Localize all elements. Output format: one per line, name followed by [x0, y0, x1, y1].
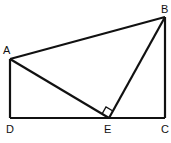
geometry-diagram: A B D E C	[0, 0, 171, 143]
label-d: D	[6, 123, 14, 135]
segment-ab	[10, 17, 165, 59]
segment-ae	[10, 59, 109, 118]
label-e: E	[104, 123, 111, 135]
segment-eb	[109, 17, 165, 118]
label-a: A	[3, 44, 11, 56]
quadrilateral-abcd	[10, 17, 165, 118]
label-b: B	[161, 3, 168, 15]
label-c: C	[161, 123, 169, 135]
